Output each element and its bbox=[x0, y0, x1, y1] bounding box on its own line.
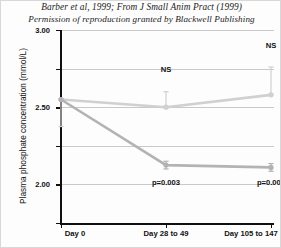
data-point-marker bbox=[163, 105, 168, 110]
chart-annotation: NS bbox=[161, 65, 172, 74]
x-axis-tick-label: Day 28 to 49 bbox=[144, 229, 189, 238]
chart-annotation: p=0.007 bbox=[257, 178, 281, 187]
y-axis-title: Plasma phosphate concentration (mmol/L) bbox=[18, 26, 28, 226]
data-point-marker bbox=[58, 97, 63, 102]
y-axis-tick-label: 2.00 bbox=[35, 180, 50, 189]
x-axis-tick-label: Day 0 bbox=[65, 229, 86, 238]
caption-line-2: Permission of reproduction granted by Bl… bbox=[1, 14, 281, 24]
figure-container: Barber et al, 1999; From J Small Anim Pr… bbox=[0, 0, 281, 248]
data-point-marker bbox=[268, 165, 273, 170]
chart-annotation: p=0.003 bbox=[152, 178, 180, 187]
y-axis-tick-label: 3.00 bbox=[35, 26, 50, 35]
data-point-marker bbox=[268, 92, 273, 97]
plot-area: 0.501.001.502.002.503.00 Day 0Day 28 to … bbox=[60, 30, 274, 223]
caption-line-1: Barber et al, 1999; From J Small Anim Pr… bbox=[1, 2, 281, 12]
series-layer bbox=[60, 30, 274, 223]
y-axis-tick-label: 2.50 bbox=[35, 103, 50, 112]
data-point-marker bbox=[163, 163, 168, 168]
x-axis-line bbox=[60, 223, 274, 225]
chart-annotation: NS bbox=[266, 41, 277, 50]
x-axis-tick-label: Day 105 to 147 bbox=[224, 229, 277, 238]
